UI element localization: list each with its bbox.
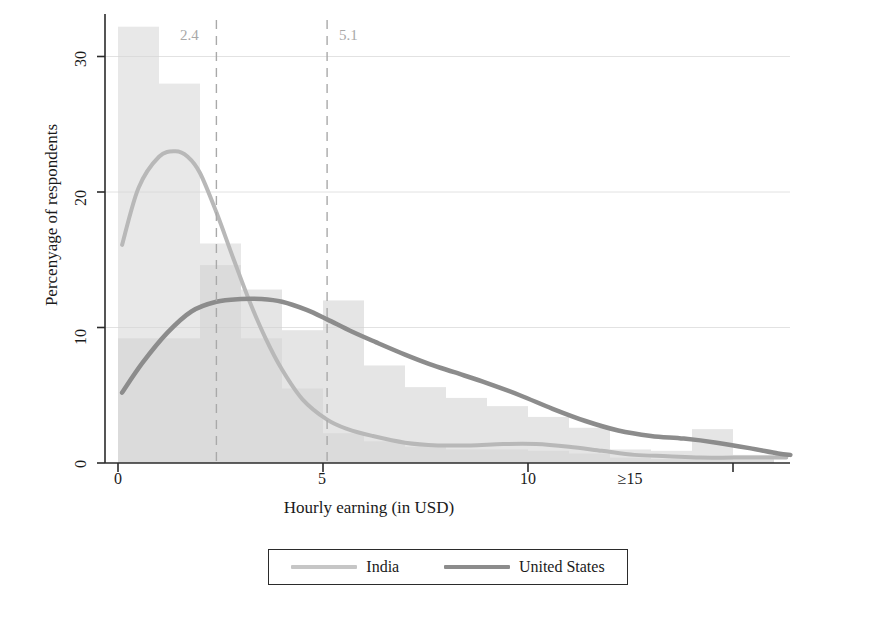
x-tick-label-5: 5	[295, 470, 349, 488]
histogram-bar	[323, 300, 364, 463]
x-tick-label-0: 0	[91, 470, 145, 488]
histogram-bar	[118, 338, 159, 463]
chart-legend: India United States	[268, 549, 628, 585]
legend-label-united-states: United States	[519, 558, 605, 576]
x-tick-label-15: ≥15	[603, 470, 657, 488]
legend-swatch-india	[291, 565, 357, 569]
legend-swatch-united-states	[444, 565, 510, 569]
histogram-bar	[241, 290, 282, 463]
y-axis-label: Percenyage of respondents	[42, 65, 62, 365]
y-tick-label-30: 30	[72, 44, 90, 74]
histogram-bar	[487, 406, 528, 463]
y-tick-label-10: 10	[72, 322, 90, 352]
legend-entry-united-states[interactable]: United States	[444, 558, 605, 576]
legend-entry-india[interactable]: India	[291, 558, 399, 576]
histogram-bar	[569, 428, 610, 463]
plot-area	[0, 0, 876, 617]
y-tick-label-0: 0	[72, 449, 90, 479]
histogram-bar	[159, 338, 200, 463]
reference-line-label-5-1: 5.1	[339, 27, 358, 44]
histogram-bar	[364, 365, 405, 463]
histogram-bar	[446, 398, 487, 463]
histogram-bar	[405, 387, 446, 463]
x-axis-label: Hourly earning (in USD)	[118, 498, 620, 518]
y-tick-label-20: 20	[72, 183, 90, 213]
histogram-bar	[200, 265, 241, 463]
histogram-bar	[528, 417, 569, 463]
reference-line-label-2-4: 2.4	[180, 27, 199, 44]
legend-label-india: India	[366, 558, 399, 576]
chart-figure: Percenyage of respondents 0 10 20 30 0 5…	[0, 0, 876, 617]
x-tick-label-10: 10	[501, 470, 555, 488]
